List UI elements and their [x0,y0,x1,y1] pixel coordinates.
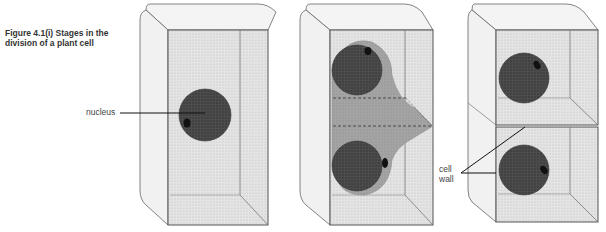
nucleus-label: nucleus [86,108,115,117]
nucleus-icon [332,45,382,95]
stage-1-cell [120,4,276,225]
stage-2-cell [300,4,433,225]
stage-3-cells [461,4,598,222]
diagram-canvas: Figure 4.1(i) Stages in the division of … [0,0,606,232]
cell-wall-label-line-1: cell [439,165,452,174]
nucleus-icon [499,53,549,103]
nucleus-icon [332,141,382,191]
nucleus-icon [179,89,231,141]
cell-wall-label-line-2: wall [439,175,454,184]
